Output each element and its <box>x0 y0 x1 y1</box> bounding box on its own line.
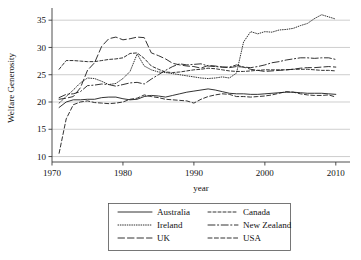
welfare-generosity-chart: 10152025303519701980199020002010 Welfare… <box>0 0 361 260</box>
y-axis-title: Welfare Generosity <box>6 53 16 123</box>
legend-label-australia: Australia <box>157 207 190 217</box>
legend-label-ireland: Ireland <box>157 220 183 230</box>
chart-canvas: 10152025303519701980199020002010 Welfare… <box>0 0 361 260</box>
x-axis-title: year <box>193 183 209 193</box>
y-tick-label: 25 <box>37 70 47 80</box>
y-tick-label: 30 <box>37 43 47 53</box>
x-tick-label: 1970 <box>43 168 62 178</box>
y-tick-label: 35 <box>37 15 47 25</box>
legend-label-usa: USA <box>243 233 262 243</box>
legend-label-canada: Canada <box>243 207 270 217</box>
legend-label-new-zealand: New Zealand <box>243 220 292 230</box>
y-tick-label: 20 <box>37 97 47 107</box>
legend-label-uk: UK <box>157 233 170 243</box>
x-tick-label: 2010 <box>327 168 346 178</box>
y-tick-label: 15 <box>37 124 47 134</box>
y-tick-label: 10 <box>37 152 47 162</box>
x-tick-label: 1980 <box>114 168 133 178</box>
x-tick-label: 1990 <box>185 168 204 178</box>
x-tick-label: 2000 <box>256 168 275 178</box>
